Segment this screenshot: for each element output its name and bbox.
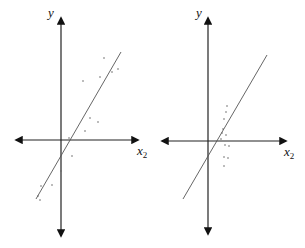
data-point bbox=[84, 130, 86, 132]
data-point bbox=[99, 76, 101, 78]
scatter-points bbox=[220, 105, 230, 167]
data-point bbox=[37, 195, 39, 197]
regression-line bbox=[36, 52, 121, 199]
left-panel: y x2 bbox=[16, 5, 147, 236]
right-panel: y x2 bbox=[162, 5, 294, 234]
x-axis-label: x2 bbox=[136, 143, 147, 160]
data-point bbox=[223, 156, 225, 158]
data-point bbox=[89, 117, 91, 119]
data-point bbox=[68, 137, 70, 139]
y-axis-label: y bbox=[46, 5, 54, 20]
data-point bbox=[71, 155, 73, 157]
data-point bbox=[222, 128, 224, 130]
data-point bbox=[226, 105, 228, 107]
data-point bbox=[103, 57, 105, 59]
data-point bbox=[223, 165, 225, 167]
data-point bbox=[225, 111, 227, 113]
data-point bbox=[225, 134, 227, 136]
data-point bbox=[224, 144, 226, 146]
data-point bbox=[117, 68, 119, 70]
scatter-points bbox=[37, 57, 119, 201]
data-point bbox=[221, 132, 223, 134]
data-point bbox=[39, 199, 41, 201]
data-point bbox=[111, 71, 113, 73]
data-point bbox=[60, 170, 62, 172]
data-point bbox=[51, 184, 53, 186]
regression-line bbox=[183, 55, 267, 199]
x-axis-label: x2 bbox=[283, 144, 294, 161]
data-point bbox=[220, 138, 222, 140]
data-point bbox=[40, 185, 42, 187]
data-point bbox=[227, 157, 229, 159]
data-point bbox=[97, 121, 99, 123]
data-point bbox=[228, 145, 230, 147]
data-point bbox=[223, 118, 225, 120]
data-point bbox=[82, 80, 84, 82]
regression-diagram: y x2 y x2 bbox=[0, 0, 305, 248]
y-axis-label: y bbox=[194, 5, 202, 20]
